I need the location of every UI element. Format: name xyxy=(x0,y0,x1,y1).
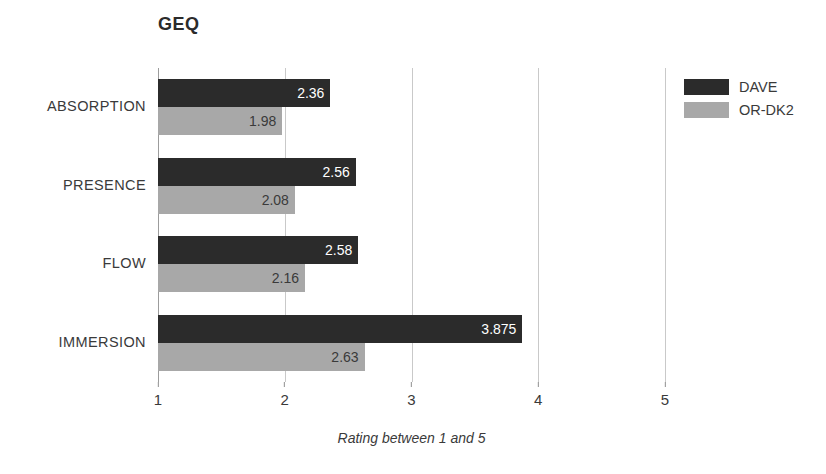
x-tick-label: 2 xyxy=(281,391,289,408)
bar-groups: 2.361.982.562.082.582.163.8752.63 xyxy=(158,68,665,382)
x-axis-ticks: 12345 xyxy=(158,382,665,412)
bar-group: 2.582.16 xyxy=(158,236,665,292)
category-label-immersion: IMMERSION xyxy=(0,334,146,350)
bar-row: 1.98 xyxy=(158,107,665,135)
tick-mark xyxy=(411,382,412,387)
x-tick-label: 3 xyxy=(407,391,415,408)
bar-value-label: 2.63 xyxy=(331,350,364,364)
chart-title: GEQ xyxy=(158,14,200,35)
legend-item-dave[interactable]: DAVE xyxy=(684,79,794,95)
legend-label: OR-DK2 xyxy=(739,102,794,118)
bar-dave-flow[interactable]: 2.58 xyxy=(158,236,358,264)
bar-row: 3.875 xyxy=(158,315,665,343)
category-axis-labels: ABSORPTIONPRESENCEFLOWIMMERSION xyxy=(0,68,146,382)
tick-mark xyxy=(538,382,539,387)
bar-or-dk2-immersion[interactable]: 2.63 xyxy=(158,343,365,371)
x-tick-4: 4 xyxy=(534,382,542,408)
legend-label: DAVE xyxy=(739,79,777,95)
bar-group: 2.562.08 xyxy=(158,158,665,214)
legend-swatch-dave xyxy=(684,79,729,95)
bar-row: 2.63 xyxy=(158,343,665,371)
bar-row: 2.36 xyxy=(158,79,665,107)
x-tick-label: 5 xyxy=(661,391,669,408)
category-label-presence: PRESENCE xyxy=(0,177,146,193)
bar-or-dk2-flow[interactable]: 2.16 xyxy=(158,264,305,292)
bar-or-dk2-absorption[interactable]: 1.98 xyxy=(158,107,282,135)
bar-row: 2.58 xyxy=(158,236,665,264)
bar-group: 2.361.98 xyxy=(158,79,665,135)
tick-mark xyxy=(284,382,285,387)
x-tick-2: 2 xyxy=(281,382,289,408)
bar-dave-presence[interactable]: 2.56 xyxy=(158,158,356,186)
x-axis-label: Rating between 1 and 5 xyxy=(158,430,665,446)
bar-row: 2.08 xyxy=(158,186,665,214)
bar-value-label: 2.16 xyxy=(272,271,305,285)
bar-group: 3.8752.63 xyxy=(158,315,665,371)
gridline-5 xyxy=(665,68,666,382)
x-tick-label: 1 xyxy=(154,391,162,408)
tick-mark xyxy=(665,382,666,387)
category-label-flow: FLOW xyxy=(0,255,146,271)
bar-value-label: 2.58 xyxy=(325,243,358,257)
x-tick-3: 3 xyxy=(407,382,415,408)
x-tick-5: 5 xyxy=(661,382,669,408)
bar-dave-immersion[interactable]: 3.875 xyxy=(158,315,522,343)
tick-mark xyxy=(158,382,159,387)
bar-value-label: 2.36 xyxy=(297,86,330,100)
geq-bar-chart: GEQ ABSORPTIONPRESENCEFLOWIMMERSION 2.36… xyxy=(0,0,826,474)
bar-value-label: 1.98 xyxy=(249,114,282,128)
bar-value-label: 2.56 xyxy=(322,165,355,179)
plot-area: 2.361.982.562.082.582.163.8752.63 xyxy=(158,68,665,382)
legend-item-or-dk2[interactable]: OR-DK2 xyxy=(684,102,794,118)
bar-value-label: 2.08 xyxy=(262,193,295,207)
bar-row: 2.16 xyxy=(158,264,665,292)
category-label-absorption: ABSORPTION xyxy=(0,98,146,114)
bar-row: 2.56 xyxy=(158,158,665,186)
bar-value-label: 3.875 xyxy=(481,322,522,336)
x-tick-1: 1 xyxy=(154,382,162,408)
x-tick-label: 4 xyxy=(534,391,542,408)
bar-or-dk2-presence[interactable]: 2.08 xyxy=(158,186,295,214)
bar-dave-absorption[interactable]: 2.36 xyxy=(158,79,330,107)
chart-legend: DAVEOR-DK2 xyxy=(684,79,794,125)
legend-swatch-ordk2 xyxy=(684,102,729,118)
